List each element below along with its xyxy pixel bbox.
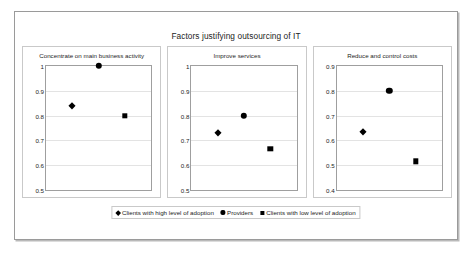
- y-axis-tick-label: 0.7: [326, 112, 335, 119]
- plot-area: 0.50.60.70.80.91: [190, 65, 297, 191]
- chart-title: Factors justifying outsourcing of IT: [15, 31, 457, 41]
- y-axis-tick-label: 0.7: [35, 137, 44, 144]
- y-axis-tick-label: 0.6: [326, 137, 335, 144]
- data-point-circle: [95, 63, 101, 69]
- gridline: [337, 116, 442, 117]
- legend-marker-circle-icon: [221, 210, 225, 214]
- y-axis-tick-label: 0.7: [181, 137, 190, 144]
- plot-wrapper: 0.50.60.70.80.91: [168, 65, 300, 191]
- data-point-circle: [386, 88, 392, 94]
- y-axis-tick-label: 1: [186, 63, 189, 70]
- y-axis-tick-label: 0.5: [326, 162, 335, 169]
- plot-area: 0.50.60.70.80.91: [45, 65, 152, 191]
- legend-item: Clients with high level of adoption: [116, 209, 213, 216]
- y-axis-tick-label: 0.8: [326, 87, 335, 94]
- y-axis-tick-label: 0.9: [326, 63, 335, 70]
- data-point-circle: [241, 112, 247, 118]
- y-axis-tick-label: 0.6: [35, 162, 44, 169]
- gridline: [191, 140, 296, 141]
- panel-title: Improve services: [168, 52, 305, 59]
- legend-label: Clients with high level of adoption: [122, 209, 214, 216]
- y-axis-tick-label: 0.8: [181, 112, 190, 119]
- legend-marker-square-icon: [260, 211, 264, 215]
- chart-frame: Factors justifying outsourcing of IT Con…: [14, 11, 458, 240]
- gridline: [337, 165, 442, 166]
- y-axis-tick-label: 0.4: [326, 187, 335, 194]
- panel-title: Reduce and control costs: [314, 52, 451, 59]
- data-point-diamond: [69, 102, 76, 109]
- data-point-square: [268, 146, 273, 151]
- y-axis-tick-label: 0.5: [181, 187, 190, 194]
- gridline: [46, 165, 151, 166]
- legend-marker-diamond-icon: [116, 210, 121, 215]
- gridline: [46, 116, 151, 117]
- plot-wrapper: 0.40.50.60.70.80.9: [314, 65, 446, 191]
- panel-title: Concentrate on main business activity: [23, 52, 160, 59]
- panel-row: Concentrate on main business activity0.5…: [22, 46, 452, 198]
- data-point-square: [413, 159, 418, 164]
- gridline: [46, 91, 151, 92]
- gridline: [337, 140, 442, 141]
- chart-panel: Improve services0.50.60.70.80.91: [167, 46, 306, 198]
- data-point-diamond: [214, 129, 221, 136]
- y-axis-tick-label: 1: [41, 63, 44, 70]
- plot-wrapper: 0.50.60.70.80.91: [23, 65, 155, 191]
- y-axis-tick-label: 0.8: [35, 112, 44, 119]
- y-axis-tick-label: 0.9: [35, 87, 44, 94]
- y-axis-tick-label: 0.5: [35, 187, 44, 194]
- chart-legend: Clients with high level of adoptionProvi…: [111, 206, 360, 219]
- y-axis-tick-label: 0.9: [181, 87, 190, 94]
- legend-label: Clients with low level of adoption: [266, 209, 355, 216]
- legend-item: Clients with low level of adoption: [260, 209, 355, 216]
- chart-panel: Reduce and control costs0.40.50.60.70.80…: [313, 46, 452, 198]
- legend-label: Providers: [227, 209, 253, 216]
- data-point-square: [122, 113, 127, 118]
- plot-area: 0.40.50.60.70.80.9: [336, 65, 443, 191]
- legend-item: Providers: [221, 209, 253, 216]
- gridline: [191, 91, 296, 92]
- data-point-diamond: [359, 128, 366, 135]
- chart-panel: Concentrate on main business activity0.5…: [22, 46, 161, 198]
- y-axis-tick-label: 0.6: [181, 162, 190, 169]
- gridline: [46, 140, 151, 141]
- gridline: [191, 165, 296, 166]
